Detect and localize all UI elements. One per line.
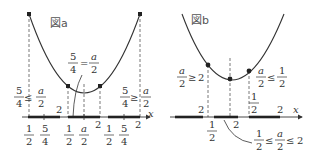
label-left-a: 5 4 ≤ a 2 bbox=[14, 85, 46, 109]
endpoint-marker bbox=[138, 12, 142, 16]
svg-text:5: 5 bbox=[70, 51, 76, 62]
point-marker bbox=[228, 77, 233, 82]
pointer-line bbox=[73, 75, 82, 117]
svg-text:2: 2 bbox=[66, 136, 72, 147]
svg-text:2: 2 bbox=[198, 72, 204, 83]
svg-text:1: 1 bbox=[209, 119, 215, 130]
axis-label-x: x bbox=[293, 104, 299, 115]
tick-label: 2 bbox=[56, 104, 62, 115]
label-right-a: 5 4 ≥ a 2 bbox=[120, 85, 151, 109]
svg-text:≥: ≥ bbox=[130, 92, 138, 103]
svg-text:4: 4 bbox=[122, 98, 128, 109]
endpoint-marker bbox=[27, 12, 31, 16]
svg-text:2: 2 bbox=[95, 119, 101, 130]
svg-text:2: 2 bbox=[26, 136, 32, 147]
svg-text:≤: ≤ bbox=[24, 92, 32, 103]
svg-text:2: 2 bbox=[258, 78, 264, 89]
svg-text:a: a bbox=[277, 128, 283, 139]
svg-text:1: 1 bbox=[66, 123, 72, 134]
svg-text:4: 4 bbox=[16, 98, 22, 109]
svg-text:1: 1 bbox=[279, 65, 285, 76]
svg-text:a: a bbox=[258, 65, 264, 76]
svg-text:2: 2 bbox=[106, 136, 112, 147]
svg-text:=: = bbox=[80, 58, 88, 69]
svg-text:2: 2 bbox=[277, 141, 283, 152]
svg-text:5: 5 bbox=[121, 123, 127, 134]
endpoint-marker bbox=[98, 84, 102, 88]
svg-text:2: 2 bbox=[91, 64, 97, 75]
svg-text:5: 5 bbox=[16, 85, 22, 96]
tick-labels-a: 1 2 5 4 1 2 a 2 2 1 2 5 4 2 bbox=[24, 119, 141, 147]
svg-text:2: 2 bbox=[198, 104, 204, 115]
svg-text:a: a bbox=[91, 51, 97, 62]
svg-text:2: 2 bbox=[297, 135, 303, 146]
axis-label-x: x bbox=[148, 108, 154, 119]
diagram-canvas: 図a x bbox=[0, 0, 312, 157]
svg-text:2: 2 bbox=[179, 78, 185, 89]
svg-text:2: 2 bbox=[209, 132, 215, 143]
svg-text:a: a bbox=[38, 85, 44, 96]
svg-text:2: 2 bbox=[143, 98, 149, 109]
svg-text:1: 1 bbox=[26, 123, 32, 134]
svg-text:a: a bbox=[81, 123, 87, 134]
svg-text:≥: ≥ bbox=[188, 72, 196, 83]
point-marker bbox=[247, 69, 252, 74]
svg-text:2: 2 bbox=[81, 136, 87, 147]
guide-lines-b bbox=[208, 58, 249, 117]
svg-text:2: 2 bbox=[38, 98, 44, 109]
endpoint-marker bbox=[66, 84, 70, 88]
point-marker bbox=[206, 63, 211, 68]
figure-b: 図b x a 2 ≥ 2 bbox=[170, 14, 303, 152]
figure-a: 図a x bbox=[14, 12, 154, 147]
parabola-a bbox=[29, 14, 140, 93]
svg-text:4: 4 bbox=[42, 136, 48, 147]
svg-text:5: 5 bbox=[42, 123, 48, 134]
svg-text:2: 2 bbox=[251, 104, 257, 115]
svg-text:1: 1 bbox=[251, 91, 257, 102]
svg-text:≤: ≤ bbox=[267, 72, 275, 83]
svg-text:4: 4 bbox=[70, 64, 76, 75]
svg-text:2: 2 bbox=[277, 104, 283, 115]
svg-text:a: a bbox=[143, 85, 149, 96]
svg-text:a: a bbox=[179, 65, 185, 76]
svg-text:1: 1 bbox=[256, 128, 262, 139]
svg-text:2: 2 bbox=[256, 141, 262, 152]
label-right-b: a 2 ≤ 1 2 bbox=[256, 65, 287, 89]
svg-text:1: 1 bbox=[106, 123, 112, 134]
svg-text:2: 2 bbox=[135, 119, 141, 130]
figure-b-title: 図b bbox=[191, 14, 209, 27]
svg-text:2: 2 bbox=[233, 119, 239, 130]
figure-a-title: 図a bbox=[50, 17, 68, 30]
svg-text:≤: ≤ bbox=[265, 135, 273, 146]
label-equal: 5 4 = a 2 bbox=[68, 51, 99, 75]
label-left-b: a 2 ≥ 2 bbox=[177, 65, 204, 89]
label-bottom-b: 1 2 ≤ a 2 ≤ 2 bbox=[254, 128, 303, 152]
svg-text:≤: ≤ bbox=[286, 135, 294, 146]
svg-text:4: 4 bbox=[121, 136, 127, 147]
svg-text:5: 5 bbox=[122, 85, 128, 96]
svg-text:2: 2 bbox=[279, 78, 285, 89]
